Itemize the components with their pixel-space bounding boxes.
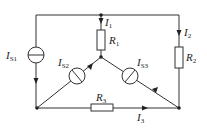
- is2-arrow-icon: [87, 63, 93, 70]
- i2-label: I2: [183, 26, 192, 40]
- resistor-r3: [91, 104, 113, 111]
- i3-arrow-icon: [142, 106, 148, 111]
- resistor-r1: [97, 30, 105, 50]
- is3-label: IS3: [136, 56, 149, 70]
- resistor-r2: [175, 47, 183, 68]
- bottom-right-junction-dot: [177, 106, 181, 110]
- is2-label: IS2: [57, 56, 70, 70]
- r1-label: R1: [108, 34, 120, 48]
- is1-label: IS1: [5, 49, 18, 63]
- is1-arrow-icon: [34, 78, 39, 84]
- r3-label: R3: [95, 91, 107, 105]
- i1-label: I1: [104, 16, 113, 30]
- r2-label: R2: [185, 51, 197, 65]
- circuit-diagram: IS1 I1 R1 I2 R2 IS2 IS3 R3 I3: [0, 0, 207, 130]
- current-source-is2: [69, 63, 93, 84]
- i2-arrow-icon: [177, 30, 182, 36]
- center-junction-dot: [99, 55, 103, 59]
- i3-label: I3: [136, 111, 145, 125]
- top-junction-dot: [99, 13, 103, 17]
- i1-arrow-icon: [99, 18, 104, 24]
- bottom-left-junction-dot: [35, 106, 39, 110]
- current-source-is3: [122, 68, 158, 93]
